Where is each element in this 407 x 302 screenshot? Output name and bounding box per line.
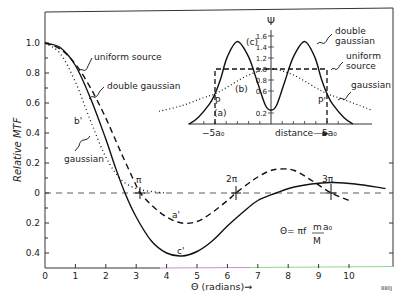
- formula-denominator: M: [313, 236, 321, 246]
- formula-a0: a₀: [323, 222, 333, 232]
- x-tick-label: 1: [73, 271, 79, 281]
- inset-gaussian-annotation: gaussian: [351, 80, 391, 90]
- inset-b-label: (b): [235, 84, 248, 94]
- x-axis-colored-segment: [250, 267, 393, 268]
- y-tick-label: 0.2: [26, 158, 40, 168]
- c-prime-label: c': [177, 246, 184, 256]
- point-p-prime-label: P': [318, 96, 326, 106]
- mtf-chart: 1.00.80.60.40.200.20.4 012345678910 π 2π…: [0, 0, 407, 302]
- x-tick-label: 2: [103, 271, 109, 281]
- formula-theta: Θ= πf: [280, 226, 307, 236]
- pi-markers: [135, 184, 336, 200]
- x-tick-label: 9: [316, 271, 322, 281]
- x-tick-label: 7: [255, 271, 261, 281]
- theta-formula: Θ= πf m a₀ M: [280, 222, 333, 246]
- figure-id: 880J: [381, 285, 392, 291]
- double-gaussian-annotation: double gaussian: [107, 81, 181, 91]
- y-tick-label: 0.2: [26, 218, 40, 228]
- inset-y-tick-label: 0.2: [256, 110, 267, 118]
- formula-numerator: m: [313, 222, 322, 232]
- inset-double-annotation: double: [335, 26, 366, 36]
- y-axis-title: Relative MTF: [12, 117, 23, 182]
- inset-minus5a0-label: −5a₀: [202, 128, 225, 138]
- inset-uniform-annotation: uniform: [346, 51, 381, 61]
- inset-chart: 0.20.60.81.01.21.41.6 Ψ (c) (b) (a) P P'…: [159, 16, 391, 138]
- inset-y-tick-label: 1.2: [256, 55, 267, 63]
- y-axis-ticks: 1.00.80.60.40.200.20.4: [26, 38, 49, 258]
- series-gaussian: [45, 43, 167, 193]
- inset-gaussian-word-annotation: gaussian: [335, 36, 375, 46]
- y-tick-label: 0.8: [26, 68, 41, 78]
- y-tick-label: 1.0: [26, 38, 41, 48]
- y-tick-label: 0.4: [26, 128, 41, 138]
- gaussian-annotation: gaussian: [64, 154, 104, 164]
- x-tick-label: 0: [42, 271, 48, 281]
- x-tick-label: 10: [343, 271, 355, 281]
- inset-source-annotation: source: [346, 61, 376, 71]
- psi-label: Ψ: [267, 16, 275, 27]
- x-tick-label: 3: [133, 271, 139, 281]
- a-prime-label: a': [172, 210, 180, 220]
- x-tick-label: 5: [194, 271, 200, 281]
- x-axis-colored-segment: [160, 268, 250, 269]
- y-tick-label: 0.4: [26, 248, 41, 258]
- point-p-label: P: [215, 96, 221, 106]
- inset-c-label: (c): [246, 37, 258, 47]
- plot-frame: [45, 8, 393, 268]
- three-pi-label: 3π: [322, 174, 334, 184]
- x-tick-label: 4: [164, 271, 170, 281]
- inset-a-label: (a): [214, 108, 227, 118]
- x-tick-label: 6: [225, 271, 231, 281]
- right-axis-ticks: [389, 163, 393, 253]
- y-tick-label: 0.6: [26, 98, 41, 108]
- y-tick-label: 0: [34, 188, 40, 198]
- x-axis-title: Θ (radians)→: [191, 281, 252, 292]
- b-prime-label: b': [74, 116, 82, 126]
- two-pi-label: 2π: [226, 174, 238, 184]
- inset-distance-label: distance—►: [275, 128, 329, 138]
- uniform-source-annotation: uniform source: [94, 52, 162, 62]
- x-tick-label: 8: [285, 271, 291, 281]
- pi-label: π: [136, 175, 142, 185]
